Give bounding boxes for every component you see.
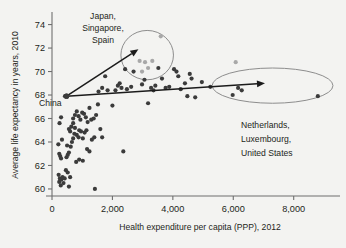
data-point bbox=[105, 88, 109, 92]
china-label: China bbox=[39, 98, 62, 108]
data-point bbox=[86, 120, 90, 124]
data-point bbox=[81, 136, 85, 140]
netherlands-label-line-3: United States bbox=[241, 148, 293, 158]
data-point bbox=[103, 74, 107, 78]
data-point bbox=[113, 88, 117, 92]
data-point bbox=[193, 95, 197, 99]
data-point bbox=[59, 115, 63, 119]
data-point bbox=[61, 181, 65, 185]
data-point bbox=[67, 185, 71, 189]
data-point bbox=[69, 145, 73, 149]
data-point bbox=[92, 116, 96, 120]
data-point bbox=[156, 66, 160, 70]
data-point bbox=[79, 129, 83, 133]
data-point bbox=[188, 72, 192, 76]
china-origin-point bbox=[64, 94, 69, 99]
data-point bbox=[100, 135, 104, 139]
data-point bbox=[174, 69, 178, 73]
data-point bbox=[140, 82, 144, 86]
japan-label-line-3: Spain bbox=[92, 35, 114, 45]
data-point bbox=[167, 85, 171, 89]
data-point bbox=[143, 60, 147, 64]
data-point bbox=[65, 143, 69, 147]
y-tick-label: 64 bbox=[35, 137, 45, 147]
y-axis-title: Average life expectancy in years, 2010 bbox=[10, 31, 20, 179]
data-point bbox=[200, 80, 204, 84]
data-point bbox=[94, 113, 98, 117]
japan-label-line-2: Singapore, bbox=[82, 23, 124, 33]
data-point bbox=[92, 135, 96, 139]
data-point bbox=[67, 150, 71, 154]
data-point bbox=[60, 138, 64, 142]
data-point bbox=[240, 88, 244, 92]
data-point bbox=[236, 86, 240, 90]
data-point bbox=[119, 86, 123, 90]
data-point bbox=[138, 59, 142, 63]
data-point bbox=[150, 59, 154, 63]
x-tick-label: 2,000 bbox=[101, 204, 124, 214]
data-point bbox=[110, 103, 114, 107]
japan-label-line-1: Japan, bbox=[90, 11, 116, 21]
data-point bbox=[183, 81, 187, 85]
data-point bbox=[96, 89, 100, 93]
data-point bbox=[142, 78, 146, 82]
data-point bbox=[76, 135, 80, 139]
data-point bbox=[146, 66, 150, 70]
data-point bbox=[159, 34, 163, 38]
data-point bbox=[56, 142, 60, 146]
data-point bbox=[231, 93, 235, 97]
x-tick-label: 0 bbox=[49, 204, 54, 214]
x-tick-label: 4,000 bbox=[161, 204, 184, 214]
data-point bbox=[146, 101, 150, 105]
data-point bbox=[68, 175, 72, 179]
data-point bbox=[66, 170, 70, 174]
data-point bbox=[125, 87, 129, 91]
y-tick-label: 60 bbox=[35, 184, 45, 194]
scatter-plot-figure: 6062646668707274 02,0004,0006,0008,000 H… bbox=[0, 0, 346, 248]
x-tick-label: 6,000 bbox=[222, 204, 245, 214]
data-point bbox=[100, 86, 104, 90]
data-point bbox=[59, 156, 63, 160]
data-point bbox=[160, 76, 164, 80]
scatter-chart: 6062646668707274 02,0004,0006,0008,000 H… bbox=[0, 0, 346, 248]
netherlands-label-line-2: Luxembourg, bbox=[241, 134, 291, 144]
data-point bbox=[84, 115, 88, 119]
data-point bbox=[87, 149, 91, 153]
data-point bbox=[78, 118, 82, 122]
data-point bbox=[73, 126, 77, 130]
data-point bbox=[75, 109, 79, 113]
data-point bbox=[71, 136, 75, 140]
data-point bbox=[176, 74, 180, 78]
data-point bbox=[189, 76, 193, 80]
data-point bbox=[63, 176, 67, 180]
data-point bbox=[71, 121, 75, 125]
data-point bbox=[93, 187, 97, 191]
data-point bbox=[98, 127, 102, 131]
data-point bbox=[140, 69, 144, 73]
x-axis-title: Health expenditure per capita (PPP), 201… bbox=[119, 222, 281, 232]
data-point bbox=[131, 69, 135, 73]
data-point bbox=[123, 67, 127, 71]
data-point bbox=[316, 94, 320, 98]
y-tick-label: 66 bbox=[35, 114, 45, 124]
data-point bbox=[57, 121, 61, 125]
x-tick-label: 8,000 bbox=[282, 204, 305, 214]
data-point bbox=[74, 160, 78, 164]
data-point bbox=[234, 60, 238, 64]
data-point bbox=[129, 85, 133, 89]
data-point bbox=[84, 128, 88, 132]
data-point bbox=[81, 159, 85, 163]
y-tick-label: 70 bbox=[35, 67, 45, 77]
data-point bbox=[87, 106, 91, 110]
data-point bbox=[121, 149, 125, 153]
data-point bbox=[96, 102, 100, 106]
data-point bbox=[185, 94, 189, 98]
netherlands-label-line-1: Netherlands, bbox=[241, 120, 290, 130]
y-tick-label: 62 bbox=[35, 161, 45, 171]
data-point bbox=[153, 84, 157, 88]
y-tick-label: 72 bbox=[35, 43, 45, 53]
y-tick-label: 74 bbox=[35, 20, 45, 30]
data-point bbox=[118, 81, 122, 85]
